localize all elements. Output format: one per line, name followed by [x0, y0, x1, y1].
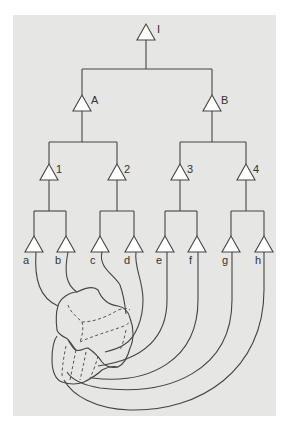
triangle-leaf-b: [57, 236, 75, 252]
label-4: 4: [253, 163, 259, 175]
dashed-fold-2: [82, 309, 130, 323]
triangle-node-A: [73, 95, 91, 111]
triangle-leaf-h: [255, 236, 273, 252]
label-2: 2: [124, 163, 130, 175]
label-B: B: [221, 94, 228, 106]
label-g: g: [222, 254, 228, 266]
dashed-fold-5: [62, 346, 66, 378]
label-e: e: [156, 254, 162, 266]
blob-lower-outline: [52, 336, 118, 384]
dashed-fold-1: [68, 305, 83, 342]
label-root: I: [157, 23, 160, 35]
label-h: h: [255, 254, 261, 266]
triangle-leaf-c: [91, 236, 109, 252]
dashed-fold-3: [80, 320, 131, 342]
triangle-leaf-f: [188, 236, 206, 252]
label-1: 1: [56, 163, 62, 175]
tree-diagram: I A B 1 2 3 4 a b c d e f g h: [0, 0, 289, 427]
curve-g: [67, 252, 232, 390]
triangle-node-root: [137, 24, 155, 40]
curve-b: [66, 252, 77, 292]
label-A: A: [91, 94, 99, 106]
label-c: c: [90, 254, 96, 266]
label-a: a: [23, 254, 30, 266]
triangle-node-B: [203, 95, 221, 111]
triangle-leaf-e: [156, 236, 174, 252]
dashed-fold-7: [80, 352, 86, 380]
curve-e: [98, 252, 167, 366]
triangle-leaf-a: [25, 236, 43, 252]
label-3: 3: [187, 163, 193, 175]
label-b: b: [55, 254, 61, 266]
label-d: d: [124, 254, 130, 266]
dashed-fold-6: [70, 350, 76, 380]
label-f: f: [189, 254, 193, 266]
triangle-leaf-d: [125, 236, 143, 252]
dashed-fold-4: [120, 330, 126, 350]
triangle-leaf-g: [222, 236, 240, 252]
